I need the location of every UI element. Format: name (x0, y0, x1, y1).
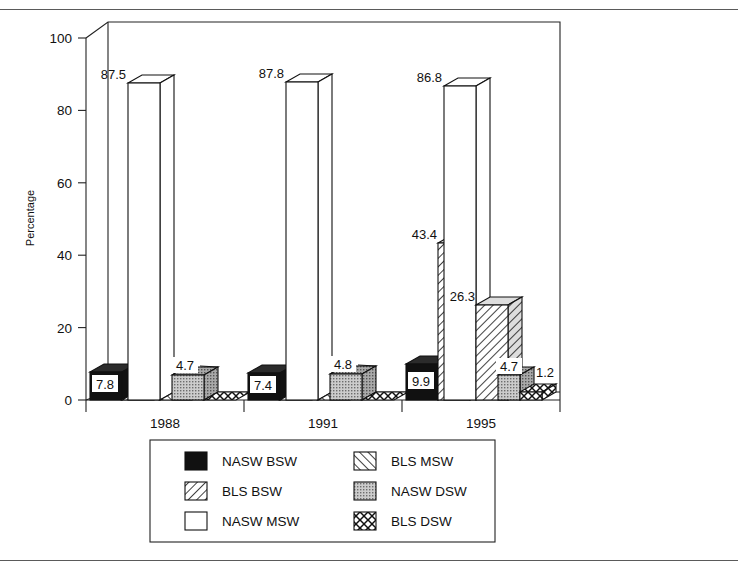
legend-swatch-nasw-dsw (354, 482, 376, 500)
y-tick-40: 40 (57, 248, 72, 263)
x-category-1988: 1988 (150, 416, 180, 431)
legend-swatch-bls-bsw (185, 482, 207, 500)
bar-1991-nasw-msw: 87.8 (259, 66, 332, 400)
legend-label-nasw-bsw: NASW BSW (222, 454, 297, 469)
legend-swatch-nasw-bsw (185, 452, 207, 470)
value-1988-nasw-bsw: 7.8 (96, 377, 114, 392)
legend-label-nasw-msw: NASW MSW (222, 514, 300, 529)
legend-label-nasw-dsw: NASW DSW (391, 484, 467, 499)
legend-label-bls-dsw: BLS DSW (391, 514, 452, 529)
value-1995-bls-bsw: 43.4 (412, 227, 437, 242)
value-1991-nasw-dsw: 4.8 (334, 357, 352, 372)
value-1995-nasw-msw: 86.8 (417, 70, 442, 85)
legend-label-bls-msw: BLS MSW (391, 454, 454, 469)
value-1988-nasw-dsw: 4.7 (176, 358, 194, 373)
x-axis-ticks (86, 400, 560, 412)
legend-swatch-bls-dsw (354, 512, 376, 530)
bar-1991-nasw-dsw: 4.8 (330, 356, 376, 400)
legend-label-bls-bsw: BLS BSW (222, 484, 282, 499)
value-1995-bls-dsw: 1.2 (536, 365, 554, 380)
bar-1988-nasw-dsw: 4.7 (172, 357, 218, 400)
y-tick-60: 60 (57, 176, 72, 191)
y-tick-100: 100 (49, 31, 72, 46)
value-1991-nasw-msw: 87.8 (259, 66, 284, 81)
y-axis-ticks (78, 38, 86, 400)
value-1995-nasw-bsw: 9.9 (412, 374, 430, 389)
value-1988-nasw-msw: 87.5 (101, 67, 126, 82)
value-1995-bls-msw: 26.3 (450, 289, 475, 304)
x-category-1991: 1991 (308, 416, 338, 431)
y-tick-80: 80 (57, 103, 72, 118)
y-axis-title: Percentage (24, 190, 36, 246)
chart-legend: NASW BSW BLS MSW BLS BSW NASW DSW NASW M… (150, 440, 495, 542)
value-1995-nasw-dsw: 4.7 (500, 359, 518, 374)
y-tick-20: 20 (57, 321, 72, 336)
legend-swatch-nasw-msw (185, 512, 207, 530)
bar-chart-figure: 0 20 40 60 80 100 Percentage 1988 1991 1… (0, 0, 738, 574)
value-1991-nasw-bsw: 7.4 (254, 378, 272, 393)
legend-swatch-bls-msw (354, 452, 376, 470)
bar-1988-nasw-msw: 87.5 (101, 67, 174, 400)
y-tick-0: 0 (64, 393, 72, 408)
x-category-1995: 1995 (466, 416, 496, 431)
